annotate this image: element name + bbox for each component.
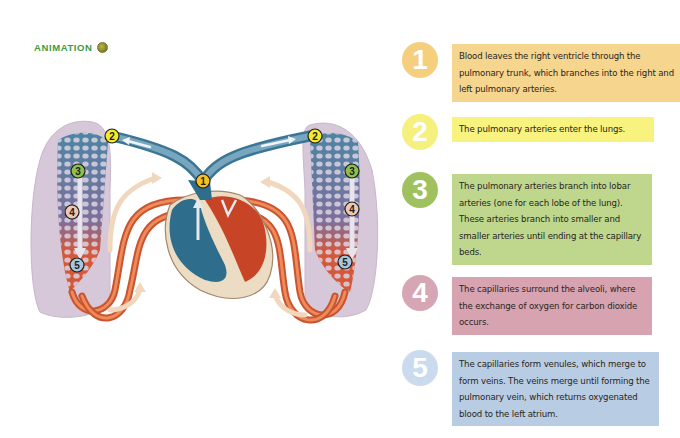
step-number-badge: 4 [402, 275, 438, 311]
marker-2-left: 2 [105, 129, 119, 143]
step-description: The capillaries form venules, which merg… [452, 352, 659, 426]
step-5: 5 The capillaries form venules, which me… [402, 350, 438, 386]
svg-text:2: 2 [312, 131, 318, 142]
step-2: 2 The pulmonary arteries enter the lungs… [402, 114, 438, 150]
svg-text:3: 3 [75, 166, 81, 177]
pulmonary-circulation-diagram: 1 2 2 3 3 4 4 5 [0, 0, 400, 438]
step-description: The capillaries surround the alveoli, wh… [452, 277, 652, 335]
marker-4-right: 4 [345, 202, 359, 216]
step-description: The pulmonary arteries enter the lungs. [452, 117, 654, 142]
marker-4-left: 4 [65, 205, 79, 219]
step-1: 1 Blood leaves the right ventricle throu… [402, 42, 438, 78]
marker-3-right: 3 [345, 164, 359, 178]
marker-2-right: 2 [308, 129, 322, 143]
svg-text:1: 1 [200, 176, 206, 187]
step-number-badge: 1 [402, 42, 438, 78]
svg-text:5: 5 [342, 257, 348, 268]
svg-text:2: 2 [109, 131, 115, 142]
heart [165, 180, 272, 298]
svg-text:3: 3 [349, 166, 355, 177]
marker-5-left: 5 [70, 258, 84, 272]
step-4: 4 The capillaries surround the alveoli, … [402, 275, 438, 311]
marker-3-left: 3 [71, 164, 85, 178]
step-description: Blood leaves the right ventricle through… [452, 44, 680, 102]
marker-5-right: 5 [338, 255, 352, 269]
svg-text:5: 5 [74, 260, 80, 271]
step-number-badge: 3 [402, 172, 438, 208]
svg-text:4: 4 [349, 204, 355, 215]
step-description: The pulmonary arteries branch into lobar… [452, 174, 652, 265]
marker-1: 1 [196, 174, 210, 188]
step-number-badge: 2 [402, 114, 438, 150]
right-lung [303, 123, 378, 317]
pulmonary-arteries [112, 136, 310, 182]
svg-text:4: 4 [69, 207, 75, 218]
step-3: 3 The pulmonary arteries branch into lob… [402, 172, 438, 208]
step-number-badge: 5 [402, 350, 438, 386]
